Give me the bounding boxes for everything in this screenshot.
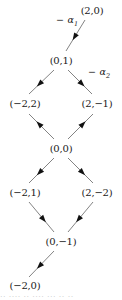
weight-diagram-figure: (2,0)(0,1)(−2,2)(2,−1)(0,0)(−2,1)(2,−2)(…: [0, 0, 122, 300]
lattice-edge: [29, 251, 54, 277]
alpha-subscript: 2: [106, 72, 110, 80]
lattice-edge: [29, 114, 54, 139]
root-label-alpha1: − α1: [56, 15, 78, 29]
lattice-edge: [68, 158, 93, 183]
lattice-edge: [29, 202, 54, 232]
lattice-edge: [29, 70, 54, 94]
weight-node-n8: (0,−1): [46, 236, 77, 247]
weight-node-n5: (0,0): [50, 143, 73, 154]
lattice-edge: [68, 114, 93, 139]
weight-node-n4: (2,−1): [82, 98, 113, 109]
clipped-footer-text: ·· ···· ·· ···· ··· ·· ··: [0, 292, 122, 300]
weight-node-n3: (−2,2): [10, 98, 41, 109]
edge-arrowhead-icon: [73, 32, 79, 40]
weight-node-n1: (2,0): [81, 5, 104, 16]
minus-sign: −: [88, 66, 96, 77]
edge-arrowhead-icon: [39, 215, 46, 222]
lattice-edge: [29, 158, 54, 183]
weight-node-n7: (2,−2): [82, 187, 113, 198]
lattice-edge: [68, 202, 93, 232]
weight-node-n2: (0,1): [50, 55, 73, 66]
edge-arrowhead-icon: [76, 215, 83, 222]
root-label-alpha2: − α2: [88, 67, 110, 81]
weight-node-n9: (−2,0): [10, 280, 41, 291]
alpha-subscript: 1: [74, 20, 78, 28]
weight-node-n6: (−2,1): [10, 187, 41, 198]
minus-sign: −: [56, 14, 64, 25]
